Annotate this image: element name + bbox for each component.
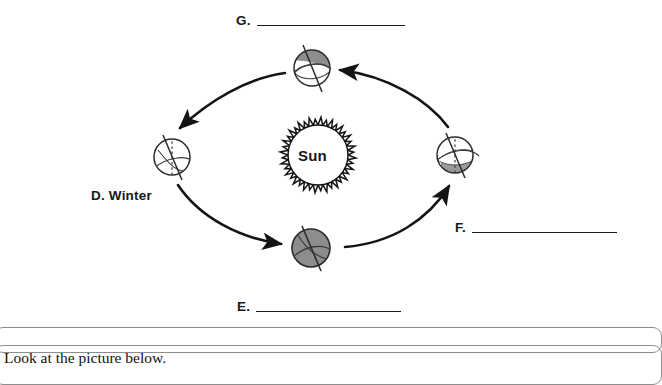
orbit-diagram-svg: [0, 0, 654, 330]
earth-bottom: [292, 226, 333, 271]
orbit-arrow-top-to-left: [180, 73, 285, 128]
earth-left: [154, 135, 194, 180]
orbit-arrow-bottom-to-right: [345, 186, 449, 247]
earth-right: [433, 133, 480, 179]
blank-key-g: G.: [236, 14, 251, 28]
blank-rule-g[interactable]: [257, 25, 405, 26]
orbit-arrow-left-to-bottom: [178, 185, 281, 244]
sun-label: Sun: [298, 147, 327, 164]
blank-line-g[interactable]: G.: [236, 14, 405, 28]
blank-rule-f[interactable]: [472, 232, 617, 233]
blank-line-e[interactable]: E.: [237, 300, 401, 314]
next-question-text: Look at the picture below.: [4, 349, 166, 367]
earth-seasons-diagram: Sun G. E. F. D. Winter: [0, 0, 654, 330]
blank-rule-e[interactable]: [256, 311, 401, 312]
earth-top: [288, 44, 336, 92]
label-d-winter: D. Winter: [91, 188, 152, 203]
blank-key-f: F.: [455, 221, 466, 235]
orbit-arrow-right-to-top: [340, 70, 448, 127]
blank-key-e: E.: [237, 300, 250, 314]
blank-line-f[interactable]: F.: [455, 221, 617, 235]
